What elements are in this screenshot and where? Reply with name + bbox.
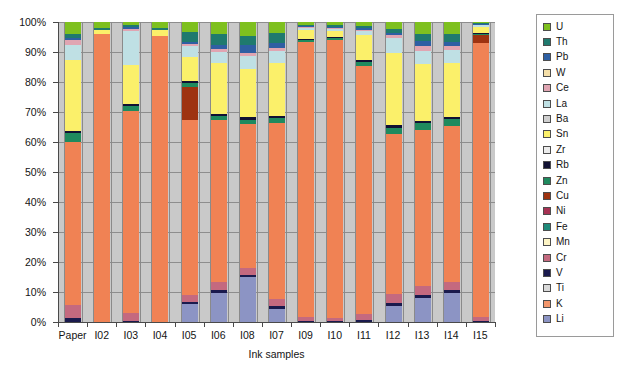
bar-segment-th[interactable] (181, 32, 198, 42)
bar-segment-fe[interactable] (326, 40, 343, 318)
bar-column[interactable] (414, 22, 431, 322)
bar-segment-rb[interactable] (268, 116, 285, 118)
bar-segment-u[interactable] (64, 22, 81, 34)
bar-segment-u[interactable] (355, 22, 372, 26)
bar-segment-pb[interactable] (443, 42, 460, 47)
legend-item-zr[interactable]: Zr (543, 142, 613, 157)
bar-segment-ce[interactable] (239, 53, 256, 56)
bar-segment-ce[interactable] (297, 27, 314, 28)
bar-segment-sn[interactable] (122, 65, 139, 104)
bar-segment-la[interactable] (210, 52, 227, 63)
bar-segment-v[interactable] (268, 306, 285, 308)
bar-segment-u[interactable] (385, 22, 402, 29)
legend-item-k[interactable]: K (543, 296, 613, 311)
bar-segment-fe[interactable] (93, 34, 110, 322)
bar-segment-zn[interactable] (385, 128, 402, 134)
bar-segment-cr[interactable] (268, 299, 285, 306)
bar-segment-fe[interactable] (64, 142, 81, 305)
bar-segment-v[interactable] (414, 295, 431, 298)
bar-segment-pb[interactable] (239, 45, 256, 53)
bar-column[interactable] (297, 22, 314, 322)
bar-segment-zn[interactable] (181, 83, 198, 87)
bar-segment-th[interactable] (355, 26, 372, 29)
bar-segment-cu[interactable] (181, 87, 198, 121)
bar-segment-rb[interactable] (472, 33, 489, 34)
bar-segment-th[interactable] (326, 25, 343, 27)
bar-segment-ce[interactable] (64, 40, 81, 45)
legend-item-ni[interactable]: Ni (543, 204, 613, 219)
bar-segment-sn[interactable] (414, 64, 431, 121)
legend-item-sn[interactable]: Sn (543, 127, 613, 142)
bar-segment-pb[interactable] (210, 45, 227, 49)
bar-column[interactable] (268, 22, 285, 322)
legend-item-th[interactable]: Th (543, 34, 613, 49)
bar-segment-zn[interactable] (122, 106, 139, 111)
bar-segment-fe[interactable] (210, 120, 227, 282)
bar-segment-la[interactable] (268, 51, 285, 63)
bar-segment-u[interactable] (472, 22, 489, 23)
bar-segment-fe[interactable] (385, 134, 402, 295)
bar-column[interactable] (385, 22, 402, 322)
bar-segment-cu[interactable] (472, 35, 489, 43)
bar-segment-v[interactable] (443, 290, 460, 293)
bar-segment-pb[interactable] (472, 24, 489, 25)
bar-column[interactable] (326, 22, 343, 322)
bar-segment-rb[interactable] (355, 60, 372, 62)
bar-segment-th[interactable] (210, 34, 227, 45)
bar-column[interactable] (151, 22, 168, 322)
bar-segment-u[interactable] (443, 22, 460, 34)
bar-segment-sn[interactable] (326, 31, 343, 38)
bar-segment-li[interactable] (385, 306, 402, 322)
bar-segment-la[interactable] (355, 31, 372, 35)
bar-column[interactable] (181, 22, 198, 322)
bar-segment-la[interactable] (239, 56, 256, 69)
bar-segment-pb[interactable] (326, 27, 343, 28)
bar-segment-zn[interactable] (239, 120, 256, 125)
bar-segment-fe[interactable] (181, 120, 198, 295)
bar-segment-th[interactable] (93, 28, 110, 30)
bar-segment-zn[interactable] (443, 119, 460, 126)
bar-segment-cr[interactable] (355, 314, 372, 320)
bar-segment-u[interactable] (414, 22, 431, 34)
bar-segment-rb[interactable] (414, 121, 431, 123)
bar-segment-rb[interactable] (239, 117, 256, 119)
bar-segment-li[interactable] (414, 298, 431, 322)
bar-segment-fe[interactable] (355, 66, 372, 314)
bar-segment-fe[interactable] (297, 42, 314, 317)
bar-segment-li[interactable] (443, 293, 460, 322)
bar-segment-rb[interactable] (385, 125, 402, 127)
bar-segment-pb[interactable] (297, 26, 314, 27)
legend-item-cr[interactable]: Cr (543, 250, 613, 265)
bar-segment-cr[interactable] (472, 317, 489, 321)
bar-segment-la[interactable] (326, 29, 343, 31)
bar-segment-cr[interactable] (210, 282, 227, 290)
bar-segment-la[interactable] (443, 50, 460, 63)
bar-segment-u[interactable] (326, 22, 343, 25)
legend-item-fe[interactable]: Fe (543, 219, 613, 234)
legend-item-v[interactable]: V (543, 265, 613, 280)
bar-segment-pb[interactable] (414, 41, 431, 46)
bar-segment-sn[interactable] (268, 63, 285, 116)
bar-segment-sn[interactable] (385, 53, 402, 125)
bar-segment-cr[interactable] (385, 294, 402, 303)
bar-segment-u[interactable] (122, 22, 139, 25)
bar-segment-u[interactable] (181, 22, 198, 32)
bar-segment-v[interactable] (239, 275, 256, 277)
bar-segment-pb[interactable] (355, 28, 372, 29)
legend-item-ti[interactable]: Ti (543, 281, 613, 296)
bar-segment-th[interactable] (385, 29, 402, 33)
bar-segment-sn[interactable] (239, 69, 256, 118)
bar-segment-fe[interactable] (268, 123, 285, 299)
bar-segment-sn[interactable] (443, 63, 460, 117)
bar-segment-fe[interactable] (151, 36, 168, 323)
bar-segment-ce[interactable] (268, 48, 285, 51)
bar-segment-ce[interactable] (355, 30, 372, 32)
bar-segment-fe[interactable] (443, 126, 460, 281)
bar-segment-th[interactable] (122, 25, 139, 27)
bar-segment-sn[interactable] (93, 30, 110, 34)
bar-segment-u[interactable] (268, 22, 285, 33)
legend-item-u[interactable]: U (543, 19, 613, 34)
bar-segment-la[interactable] (414, 51, 431, 65)
legend-item-cu[interactable]: Cu (543, 188, 613, 203)
bar-segment-ce[interactable] (443, 46, 460, 50)
